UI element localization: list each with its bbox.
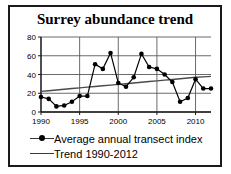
legend-label-trend-1990-2012: Trend 1990-2012 bbox=[54, 148, 138, 160]
data-point bbox=[93, 62, 98, 67]
legend-item-trend-1990-2012: Trend 1990-2012 bbox=[30, 146, 210, 161]
data-point bbox=[209, 86, 214, 91]
series-line-trend bbox=[41, 76, 211, 91]
x-tick-label: 2005 bbox=[148, 117, 166, 126]
data-point bbox=[54, 104, 59, 109]
y-tick-label: 0 bbox=[32, 108, 37, 117]
data-point bbox=[39, 95, 44, 100]
data-point bbox=[193, 77, 198, 82]
legend-key-line-only-icon bbox=[30, 148, 54, 160]
data-point bbox=[201, 86, 206, 91]
y-tick-label: 40 bbox=[27, 71, 36, 80]
x-tick-label: 2000 bbox=[109, 117, 127, 126]
data-point bbox=[155, 67, 160, 72]
y-tick-label: 20 bbox=[27, 89, 36, 98]
data-point bbox=[170, 80, 175, 85]
data-point bbox=[77, 94, 82, 99]
series-line-average-annual-transect-index bbox=[41, 53, 211, 106]
chart-legend: Average annual transect index Trend 1990… bbox=[30, 131, 210, 161]
data-point bbox=[62, 103, 67, 108]
data-point bbox=[147, 65, 152, 70]
y-tick-label: 80 bbox=[27, 33, 36, 42]
x-tick-label: 1995 bbox=[71, 117, 89, 126]
data-point bbox=[116, 81, 121, 86]
data-point bbox=[124, 84, 129, 89]
data-point bbox=[139, 52, 144, 57]
data-point bbox=[108, 51, 113, 56]
data-point bbox=[131, 75, 136, 80]
legend-item-average-annual-transect-index: Average annual transect index bbox=[30, 131, 210, 146]
data-point bbox=[70, 99, 75, 104]
data-point bbox=[46, 97, 51, 102]
legend-key-line-with-marker-icon bbox=[30, 133, 54, 145]
data-point bbox=[186, 96, 191, 101]
y-tick-label: 60 bbox=[27, 52, 36, 61]
data-point bbox=[101, 67, 106, 72]
data-point bbox=[85, 94, 90, 99]
legend-label-average-annual-transect-index: Average annual transect index bbox=[54, 133, 202, 145]
data-point bbox=[178, 99, 183, 104]
x-tick-label: 2010 bbox=[187, 117, 205, 126]
x-tick-label: 1990 bbox=[32, 117, 50, 126]
data-point bbox=[162, 72, 167, 77]
